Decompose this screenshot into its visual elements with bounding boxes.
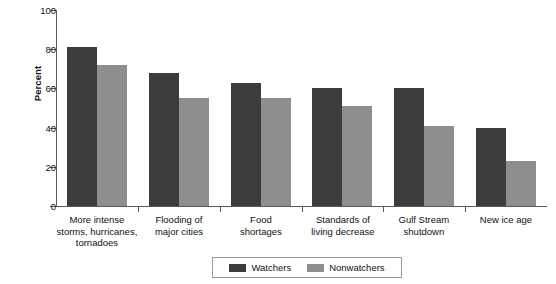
- bar: [149, 73, 179, 206]
- legend-label-watchers: Watchers: [251, 262, 291, 273]
- bar: [476, 128, 506, 206]
- legend-entry-watchers: Watchers: [229, 262, 291, 273]
- y-axis-line: [56, 10, 57, 206]
- bar: [97, 65, 127, 206]
- y-axis-tick-label: 40: [26, 122, 56, 133]
- bar: [394, 88, 424, 206]
- bar: [179, 98, 209, 206]
- legend-swatch-nonwatchers-icon: [307, 264, 324, 272]
- legend-swatch-watchers-icon: [229, 264, 246, 272]
- x-axis-tick-mark: [138, 206, 139, 212]
- y-axis-tick: 80: [0, 49, 56, 50]
- bar: [342, 106, 372, 206]
- legend-entry-nonwatchers: Nonwatchers: [307, 262, 384, 273]
- y-axis-tick-label: 100: [26, 5, 56, 16]
- y-axis-tick: 40: [0, 128, 56, 129]
- x-axis-category-label: New ice age: [458, 214, 554, 226]
- chart-legend: Watchers Nonwatchers: [212, 257, 402, 278]
- y-axis-tick: 60: [0, 88, 56, 89]
- x-axis-category-label-line: tornadoes: [49, 237, 145, 249]
- x-axis-tick-mark: [465, 206, 466, 212]
- bar: [312, 88, 342, 206]
- bar-chart: Percent 020406080100 More intensestorms,…: [0, 0, 556, 284]
- y-axis-tick-label: 80: [26, 44, 56, 55]
- bar: [261, 98, 291, 206]
- y-axis-tick-label: 20: [26, 161, 56, 172]
- y-axis-tick: 0: [0, 206, 56, 207]
- y-axis-tick-label: 0: [26, 201, 56, 212]
- bar: [231, 83, 261, 206]
- y-axis-tick: 100: [0, 10, 56, 11]
- legend-label-nonwatchers: Nonwatchers: [329, 262, 384, 273]
- x-axis-tick-mark: [302, 206, 303, 212]
- x-axis-category-label-line: shutdown: [376, 226, 472, 238]
- x-axis-tick-mark: [220, 206, 221, 212]
- x-axis-tick-mark: [383, 206, 384, 212]
- bar: [506, 161, 536, 206]
- x-axis-category-label-line: New ice age: [458, 214, 554, 226]
- bar: [67, 47, 97, 206]
- bar: [424, 126, 454, 206]
- y-axis-tick-label: 60: [26, 83, 56, 94]
- y-axis-tick: 20: [0, 167, 56, 168]
